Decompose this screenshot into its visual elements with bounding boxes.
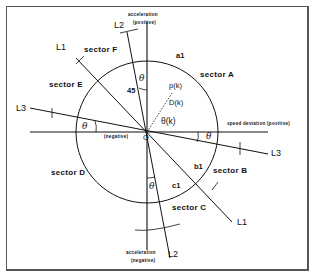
origin-label: O — [143, 134, 149, 142]
line-l2 — [127, 32, 170, 258]
point-dk-label: D(k) — [169, 99, 183, 107]
point-c1-label: c1 — [172, 182, 180, 190]
sector-d-label: sector D — [51, 169, 85, 177]
theta-label-bottom: θ — [149, 182, 154, 191]
point-pk-label: p(k) — [169, 82, 182, 90]
theta-label-left: θ — [82, 122, 87, 131]
theta-arc-left — [95, 121, 96, 132]
label-l3-left: L3 — [16, 104, 26, 113]
angle-45-label: 45 — [127, 87, 135, 95]
point-b1-label: b1 — [194, 163, 203, 171]
label-l1-bottom: L1 — [237, 218, 247, 227]
label-l2-bottom: L2 — [168, 250, 178, 259]
point-a1-label: a1 — [176, 52, 184, 60]
axis-label-accel-negative-1: acceleration — [126, 251, 156, 256]
sector-b-label: sector B — [213, 167, 247, 175]
theta-arc-top — [139, 88, 147, 90]
l2-bottom-arc — [135, 224, 180, 230]
label-l2-top: L2 — [114, 21, 124, 30]
theta-arc-bottom — [147, 177, 155, 178]
sector-e-label: sector E — [49, 81, 83, 89]
theta-label-top: θ — [139, 74, 144, 83]
axis-label-accel-negative-2: (negative) — [131, 259, 155, 264]
axis-label-accel-positive-2: (positive) — [133, 21, 156, 26]
sector-c-label: sector C — [172, 204, 206, 212]
sector-f-label: sector F — [84, 46, 118, 54]
sector-diagram-graphic — [0, 0, 316, 278]
axis-label-speed-deviation: speed deviation (positive) — [227, 122, 290, 127]
point-thetak-label: θ(k) — [161, 117, 176, 126]
l1-bottom-tick — [212, 182, 218, 190]
axis-label-accel-positive-1: acceleration — [128, 13, 158, 18]
sector-a-label: sector A — [200, 71, 234, 79]
label-l1-top: L1 — [56, 43, 66, 52]
theta-label-right: θ — [206, 132, 211, 141]
axis-label-negative: (negative) — [104, 135, 128, 140]
label-l3-right: L3 — [271, 149, 281, 158]
